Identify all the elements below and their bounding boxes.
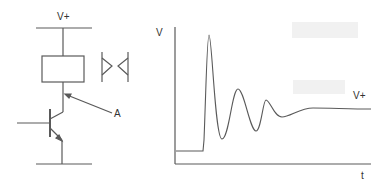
transistor-collector (50, 112, 63, 119)
background-artifact (292, 22, 358, 38)
y-axis-label: V (156, 28, 163, 38)
emitter-arrow-icon (56, 135, 62, 141)
node-a-label: A (114, 109, 121, 119)
x-axis-label: t (361, 171, 364, 180)
pointer-arrow-icon (65, 94, 71, 98)
node-a-pointer (67, 95, 112, 113)
contact-symbols-icon (102, 52, 128, 82)
background-artifact (293, 80, 345, 94)
relay-coil (42, 56, 84, 82)
supply-label: V+ (57, 12, 70, 22)
steady-state-label: V+ (353, 91, 366, 101)
